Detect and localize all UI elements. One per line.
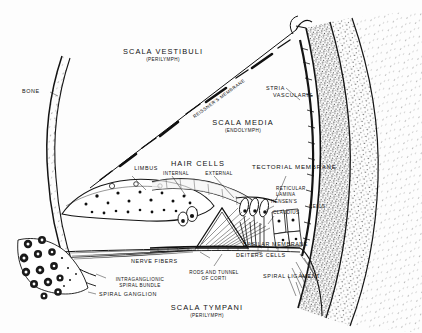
- spiral-ganglion: [18, 236, 88, 300]
- outer-hair-cells: [238, 197, 270, 217]
- leader-stria: [286, 88, 300, 100]
- cochlea-cross-section-figure: SCALA VESTIBULI (PERILYMPH) SCALA MEDIA …: [0, 0, 422, 333]
- reissners-membrane: [90, 30, 296, 188]
- stria-vascularis: [300, 40, 315, 256]
- leader-nerve-fibers: [200, 252, 210, 258]
- leader-reticular: [276, 176, 286, 200]
- leader-deiters: [252, 252, 262, 254]
- leader-rods-tunnel: [214, 254, 222, 266]
- anatomical-line-drawing: [0, 0, 422, 333]
- outer-bone-left: [47, 56, 74, 268]
- leader-intraganglionic: [96, 274, 106, 278]
- right-bone-wall: [296, 10, 422, 333]
- hensen-claudius-cells: [272, 209, 302, 248]
- leader-spiral-ganglion: [88, 292, 96, 294]
